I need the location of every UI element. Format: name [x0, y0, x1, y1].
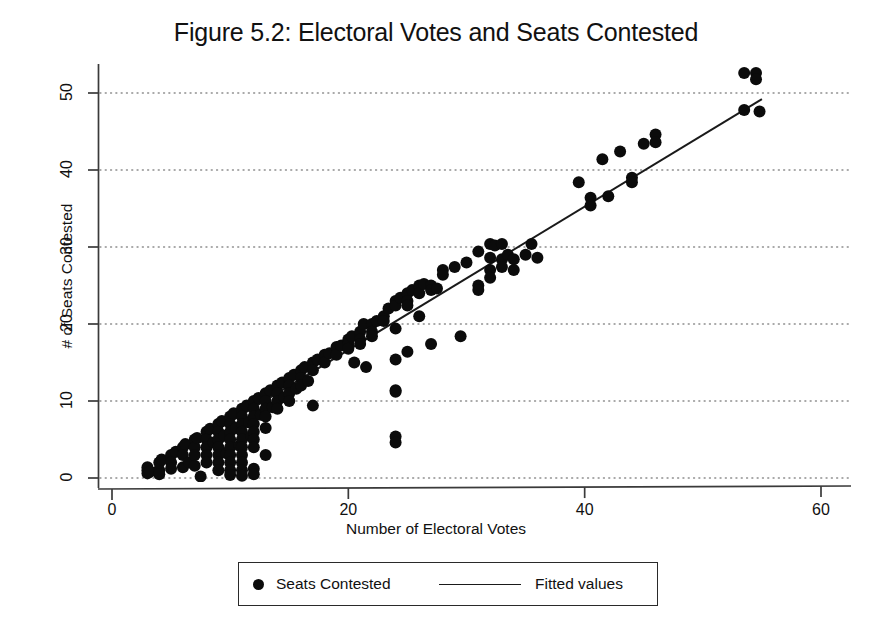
data-point: [189, 460, 201, 472]
data-point: [531, 252, 543, 264]
data-point: [484, 252, 496, 264]
data-point: [614, 146, 626, 158]
data-point: [348, 357, 360, 369]
y-tick-label-30: 30: [58, 226, 76, 266]
data-point: [525, 238, 537, 250]
data-point: [342, 343, 354, 355]
solid-line-icon: [439, 584, 521, 585]
data-point: [585, 199, 597, 211]
data-point: [455, 330, 467, 342]
data-point: [602, 190, 614, 202]
data-point: [307, 364, 319, 376]
data-point: [596, 153, 608, 165]
data-point: [496, 238, 508, 250]
figure-container: Figure 5.2: Electoral Votes and Seats Co…: [0, 0, 872, 640]
data-point: [260, 449, 272, 461]
data-point: [307, 400, 319, 412]
scatter-plot-canvas: [0, 0, 872, 640]
data-point: [754, 105, 766, 117]
data-point: [401, 300, 413, 312]
data-point: [248, 468, 260, 480]
y-tick-label-0: 0: [58, 457, 76, 497]
data-point: [573, 176, 585, 188]
data-points-group: [141, 67, 765, 482]
y-tick-label-40: 40: [58, 149, 76, 189]
y-tick-label-50: 50: [58, 72, 76, 112]
data-point: [354, 338, 366, 350]
data-point: [378, 315, 390, 327]
data-point: [360, 361, 372, 373]
data-point: [638, 138, 650, 150]
x-tick-label-20: 20: [318, 501, 378, 519]
y-tick-label-10: 10: [58, 380, 76, 420]
data-point: [449, 261, 461, 273]
data-point: [165, 463, 177, 475]
y-tick-label-20: 20: [58, 303, 76, 343]
data-point: [472, 284, 484, 296]
legend-label-fitted-values: Fitted values: [535, 575, 623, 593]
data-point: [224, 469, 236, 481]
data-point: [248, 441, 260, 453]
filled-circle-icon: [253, 579, 264, 590]
data-point: [212, 464, 224, 476]
x-tick-label-40: 40: [555, 501, 615, 519]
data-point: [431, 283, 443, 295]
data-point: [271, 403, 283, 415]
data-point: [401, 346, 413, 358]
data-point: [520, 249, 532, 261]
x-tick-label-0: 0: [82, 501, 142, 519]
data-point: [390, 386, 402, 398]
data-point: [413, 310, 425, 322]
data-point: [508, 253, 520, 265]
data-point: [195, 470, 207, 482]
data-point: [650, 136, 662, 148]
data-point: [738, 104, 750, 116]
data-point: [260, 422, 272, 434]
data-point: [201, 457, 213, 469]
data-point: [472, 246, 484, 258]
data-point: [508, 264, 520, 276]
data-point: [366, 330, 378, 342]
data-point: [437, 269, 449, 281]
data-point: [484, 272, 496, 284]
data-point: [390, 353, 402, 365]
x-tick-label-60: 60: [791, 501, 851, 519]
x-axis-title: Number of Electoral Votes: [0, 520, 872, 538]
data-point: [189, 449, 201, 461]
data-point: [750, 73, 762, 85]
legend-item-seats-contested: Seats Contested: [253, 572, 391, 596]
data-point: [302, 375, 314, 387]
data-point: [236, 470, 248, 482]
data-point: [626, 176, 638, 188]
x-axis-line: [98, 486, 851, 489]
data-point: [390, 323, 402, 335]
data-point: [283, 395, 295, 407]
data-point: [738, 67, 750, 79]
data-point: [425, 338, 437, 350]
data-point: [496, 261, 508, 273]
data-point: [390, 437, 402, 449]
data-point: [153, 468, 165, 480]
legend-item-fitted-values: Fitted values: [439, 572, 623, 596]
data-point: [461, 256, 473, 268]
legend: Seats Contested Fitted values: [238, 562, 658, 606]
legend-label-seats-contested: Seats Contested: [276, 575, 391, 593]
